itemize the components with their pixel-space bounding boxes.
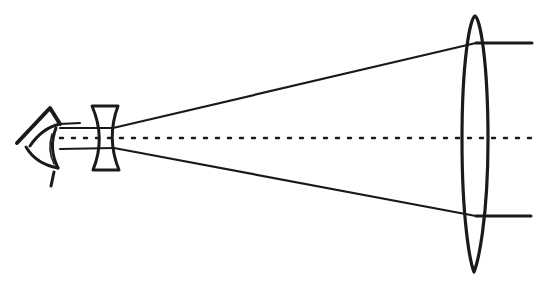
optics-diagram	[0, 0, 546, 286]
lower-ray	[114, 148, 531, 216]
diagram-canvas: Galilean telescope optical path	[0, 0, 546, 286]
convex-lens-icon	[462, 16, 488, 272]
upper-ray	[113, 43, 532, 128]
eye-icon	[17, 108, 80, 186]
